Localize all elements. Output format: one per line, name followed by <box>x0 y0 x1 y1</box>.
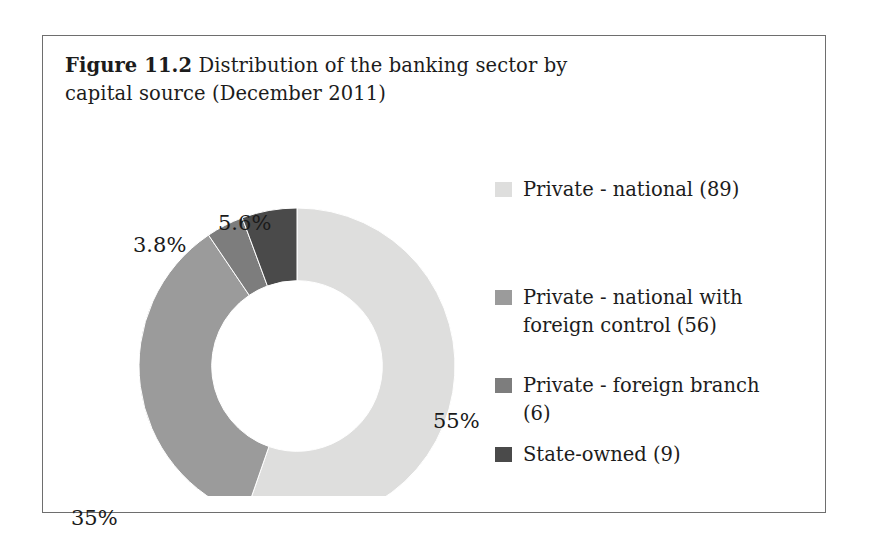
donut-chart: 5.6% 3.8% 55% 35% Private - national (89… <box>43 36 827 514</box>
donut-plot: 5.6% 3.8% 55% 35% <box>55 116 475 496</box>
legend-item: Private - national (89) <box>495 176 739 204</box>
slice-label-private-national: 55% <box>433 409 480 433</box>
legend-item: Private - foreign branch (6) <box>495 372 775 429</box>
legend-swatch-icon <box>495 290 512 305</box>
legend-swatch-icon <box>495 378 512 393</box>
donut-slice-group <box>139 208 455 496</box>
slice-label-state-owned: 5.6% <box>218 211 271 235</box>
donut-svg <box>55 116 475 496</box>
legend-item-label: Private - national (89) <box>523 176 739 204</box>
legend-item-label: State-owned (9) <box>523 441 681 469</box>
figure-frame: Figure 11.2 Distribution of the banking … <box>42 35 826 513</box>
slice-label-national-foreign-control: 35% <box>71 506 118 530</box>
legend-item-label: Private - national with foreign control … <box>523 284 775 341</box>
legend-item: State-owned (9) <box>495 441 681 469</box>
legend-swatch-icon <box>495 182 512 197</box>
slice-label-foreign-branch: 3.8% <box>133 233 186 257</box>
legend-swatch-icon <box>495 447 512 462</box>
legend-item: Private - national with foreign control … <box>495 284 775 341</box>
legend-item-label: Private - foreign branch (6) <box>523 372 775 429</box>
